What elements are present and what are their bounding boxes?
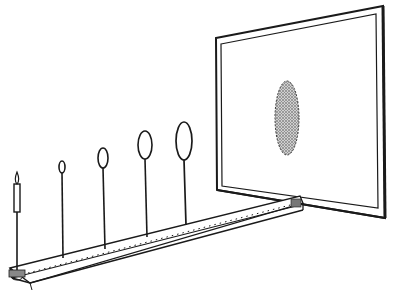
- ring-4: [176, 122, 192, 225]
- optical-bench-diagram: [0, 0, 395, 292]
- optical-bench-rail: [10, 196, 303, 290]
- ring-1: [59, 161, 65, 258]
- ring-3: [138, 131, 152, 237]
- projection-screen: [216, 6, 385, 218]
- candle: [9, 172, 25, 280]
- elliptical-shadow: [275, 81, 299, 155]
- ring-2: [98, 148, 108, 249]
